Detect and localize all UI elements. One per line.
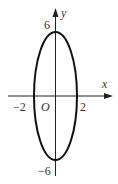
tick-label-x-neg: −2 — [13, 100, 26, 114]
y-axis-label: y — [60, 6, 67, 20]
tick-label-y-pos: 6 — [44, 18, 50, 32]
ellipse-diagram: y x O −2 2 6 −6 — [0, 0, 118, 184]
tick-label-x-pos: 2 — [80, 100, 86, 114]
y-axis-arrow-icon — [53, 8, 59, 17]
x-axis-label: x — [101, 77, 108, 91]
x-axis-arrow-icon — [104, 93, 113, 99]
tick-label-y-neg: −6 — [38, 164, 51, 178]
origin-label: O — [41, 100, 50, 114]
